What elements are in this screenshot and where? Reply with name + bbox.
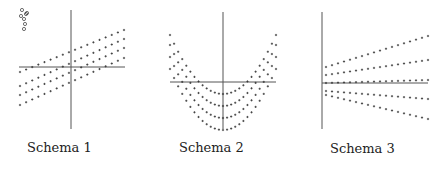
circle-marker <box>22 17 25 20</box>
schema-2-plot <box>169 12 277 131</box>
schema-1-plot <box>19 8 125 129</box>
schema-3-plot <box>322 12 429 129</box>
schema-3-caption: Schema 3 <box>330 141 395 156</box>
circle-marker <box>22 27 25 30</box>
circle-marker <box>23 22 26 25</box>
circle-marker <box>20 8 23 11</box>
schema-2-caption: Schema 2 <box>179 140 244 155</box>
schema-1-caption: Schema 1 <box>27 140 92 155</box>
circle-marker <box>19 14 22 17</box>
